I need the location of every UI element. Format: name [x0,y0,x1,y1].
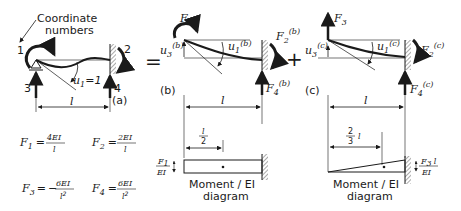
svg-text:F4=: F4= [91,182,117,197]
panel-b-label: (b) [160,84,176,97]
svg-text:4EI: 4EI [46,133,62,142]
ordinate-num-c: F3l [420,157,437,168]
two-thirds-num: 2 [348,127,353,136]
callout-leader [20,20,36,42]
half-num: l [202,127,205,136]
F2c-label: F2(c) [420,41,444,59]
moment-diagram-c [328,160,405,172]
caption-b-line2: diagram [203,190,249,203]
ordinate-den-c: EI [421,168,432,177]
F3-label: F3 [333,12,347,27]
equations: F1= 4EI l F2= 2EI l F3=− 6EI l2 F4= 6EI … [19,133,136,201]
coord-1-label: 1 [17,44,24,57]
u1-label: u1=1 [73,74,101,89]
svg-text:l: l [124,145,127,154]
equation-F1: F1= 4EI l [19,133,65,154]
F4b-label: F4(b) [265,79,290,97]
tangent-line-b [184,40,222,74]
coord-2-label: 2 [124,43,131,56]
span-label-c: l [364,94,368,107]
half-den: 2 [201,137,206,146]
svg-text:F2=: F2= [91,136,117,151]
svg-text:F3=−: F3=− [21,182,57,197]
u1b-label: u1(b) [228,39,252,55]
plus-operator: + [286,47,303,71]
fixed-wall-c [405,40,411,70]
equation-F3: F3=− 6EI l2 [21,179,74,201]
centroid-b [222,166,225,169]
u1c-label: u1(c) [377,39,400,55]
F2b-label: F2(b) [275,27,300,45]
panel-c-label: (c) [305,84,320,97]
ordinate-num-b: F1 [157,157,169,168]
moment-arrow-F2c-icon [413,40,419,62]
equation-F2: F2= 2EI l [91,133,136,154]
moment-arrow-F1-icon [174,24,197,38]
panel-b: F1 u3(b) u1(b) F2(b) F4(b) (b) l l 2 F1 [156,12,300,203]
fixed-wall [110,44,116,74]
centroid-c [383,166,386,169]
coord-3-label: 3 [24,82,31,95]
equation-F4: F4= 6EI l2 [91,179,136,201]
svg-text:l2: l2 [60,190,67,201]
callout-numbers: numbers [45,24,94,37]
moment-arrow-F2b-icon [270,44,276,68]
svg-text:l: l [53,145,56,154]
svg-text:6EI: 6EI [118,179,133,188]
svg-text:6EI: 6EI [56,179,71,188]
panel-a-label: (a) [112,94,127,107]
deflected-beam [36,58,110,67]
tangent-line [36,60,76,90]
svg-text:l2: l2 [122,190,129,201]
two-thirds-den: 3 [348,137,353,146]
caption-c-line2: diagram [347,190,393,203]
span-label-b: l [221,94,225,107]
F4c-label: F4(c) [409,80,433,98]
u3c-label: u3(c) [305,41,328,59]
svg-text:F1=: F1= [19,136,45,151]
ordinate-den-b: EI [156,168,167,177]
two-thirds-l: l [358,132,361,141]
panel-a: Coordinate numbers 1 u1=1 3 2 4 (a) [17,12,131,112]
span-label: l [70,95,74,108]
beam-diagram-figure: Coordinate numbers 1 u1=1 3 2 4 (a) [0,0,461,211]
svg-text:2EI: 2EI [117,133,133,142]
tangent-line-c [328,40,375,70]
u3b-label: u3(b) [160,41,184,59]
panel-c: F3 u3(c) u1(c) F2(c) F4(c) (c) l 2 3 l F… [305,12,444,203]
fixed-wall-b [262,40,268,70]
